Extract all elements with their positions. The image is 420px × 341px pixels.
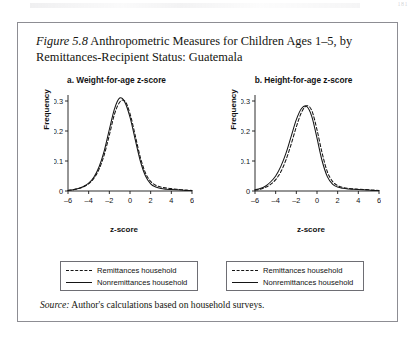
y-tick-label: 0.3: [241, 97, 250, 106]
legend-chart-b: Remittances household Nonremittances hou…: [226, 261, 364, 291]
y-tick-label: 0.1: [241, 157, 250, 166]
plot-svg-b: 00.10.20.3 –6–4–20246: [241, 91, 381, 211]
x-tick-label: –2: [105, 196, 113, 205]
x-tick-label: –6: [251, 196, 259, 205]
x-ticks-a: –6–4–20246: [64, 191, 194, 205]
x-tick-label: 0: [128, 196, 132, 205]
legend-entry-remittances-a: Remittances household: [66, 264, 176, 276]
axes-a: [68, 95, 192, 191]
figure-box: Figure 5.8 Anthropometric Measures for C…: [17, 22, 398, 322]
x-ticks-b: –6–4–20246: [251, 191, 381, 205]
y-ticks-a: 00.10.20.3: [54, 97, 68, 196]
x-axis-label-b: z-score: [241, 225, 381, 234]
density-curve-nonremittances: [255, 106, 379, 191]
solid-line-icon: [66, 278, 92, 286]
x-tick-label: –6: [64, 196, 72, 205]
density-curves-b: [255, 106, 379, 191]
y-axis-label-a: Frequency: [42, 80, 51, 140]
legend-entry-nonremittances-a: Nonremittances household: [66, 276, 187, 288]
charts-container: a. Weight-for-age z-score Frequency 00.1…: [18, 75, 399, 255]
density-curves-a: [68, 98, 192, 191]
page-number: 181: [398, 1, 409, 7]
chart-height-for-age: b. Height-for-age z-score Frequency 00.1…: [211, 75, 396, 255]
x-tick-label: –2: [292, 196, 300, 205]
legend-chart-a: Remittances household Nonremittances hou…: [60, 261, 198, 291]
y-tick-label: 0: [59, 187, 63, 196]
density-curve-remittances: [255, 106, 379, 191]
x-axis-label-a: z-score: [54, 225, 194, 234]
y-tick-label: 0.1: [54, 157, 63, 166]
solid-line-icon: [232, 278, 258, 286]
x-tick-label: 4: [169, 196, 173, 205]
plot-area-b: 00.10.20.3 –6–4–20246: [241, 91, 381, 211]
y-tick-label: 0.3: [54, 97, 63, 106]
axes-b: [255, 95, 379, 191]
chart-title-b: b. Height-for-age z-score: [211, 75, 396, 85]
scan-artifact-header: [30, 3, 360, 8]
x-tick-label: 6: [190, 196, 194, 205]
x-tick-label: 0: [315, 196, 319, 205]
y-axis-label-b: Frequency: [229, 80, 238, 140]
legend-entry-remittances-b: Remittances household: [232, 264, 342, 276]
legend-label-remittances-a: Remittances household: [97, 266, 176, 275]
source-label: Source:: [40, 299, 69, 310]
dashed-line-icon: [66, 266, 92, 274]
density-curve-nonremittances: [68, 98, 192, 191]
chart-title-a: a. Weight-for-age z-score: [24, 75, 209, 85]
source-text: Author's calculations based on household…: [71, 299, 264, 310]
y-tick-label: 0.2: [54, 127, 63, 136]
y-tick-label: 0.2: [241, 127, 250, 136]
x-tick-label: –4: [85, 196, 93, 205]
plot-svg-a: 00.10.20.3 –6–4–20246: [54, 91, 194, 211]
y-ticks-b: 00.10.20.3: [241, 97, 255, 196]
dashed-line-icon: [232, 266, 258, 274]
x-tick-label: 2: [149, 196, 153, 205]
legend-label-remittances-b: Remittances household: [263, 266, 342, 275]
y-tick-label: 0: [246, 187, 250, 196]
x-tick-label: 4: [356, 196, 360, 205]
x-tick-label: –4: [272, 196, 280, 205]
plot-area-a: 00.10.20.3 –6–4–20246: [54, 91, 194, 211]
figure-title: Figure 5.8 Anthropometric Measures for C…: [36, 33, 381, 65]
legend-label-nonremittances-b: Nonremittances household: [263, 278, 353, 287]
figure-label: Figure 5.8: [36, 34, 88, 48]
legend-label-nonremittances-a: Nonremittances household: [97, 278, 187, 287]
x-tick-label: 6: [377, 196, 381, 205]
density-curve-remittances: [68, 100, 192, 190]
chart-weight-for-age: a. Weight-for-age z-score Frequency 00.1…: [24, 75, 209, 255]
source-note: Source: Author's calculations based on h…: [40, 299, 264, 310]
legend-entry-nonremittances-b: Nonremittances household: [232, 276, 353, 288]
x-tick-label: 2: [336, 196, 340, 205]
